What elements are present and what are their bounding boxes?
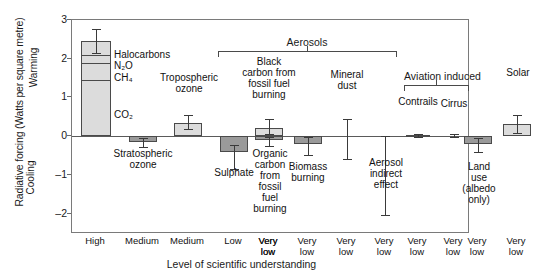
error-cap <box>230 145 239 146</box>
error-cap <box>304 155 313 156</box>
aviation-bracket-tick <box>468 85 469 91</box>
error-bar-mineral-dust <box>347 119 348 160</box>
label-n2o: N₂O <box>114 60 133 71</box>
y-axis-cooling-label: Cooling <box>25 143 36 213</box>
x-axis-title: Level of scientific understanding <box>0 258 483 270</box>
error-bar-organic-carbon-from-fossil-fuel-burning <box>269 137 270 146</box>
error-bar-sulphate <box>234 145 235 169</box>
error-cap <box>265 134 274 135</box>
aerosols-bracket-tick <box>396 51 397 57</box>
label-solar: Solar <box>500 67 535 78</box>
aviation-bracket-line <box>404 85 468 86</box>
aerosols-bracket-line <box>218 51 396 52</box>
label-mineral-dust: Mineral dust <box>320 69 374 91</box>
stack-divider-ch4 <box>82 63 110 64</box>
error-cap <box>343 119 352 120</box>
label-black-carbon: Black carbon from fossil fuel burning <box>222 56 316 100</box>
y-tick-neg1: –1 <box>37 168 67 180</box>
error-cap <box>474 152 483 153</box>
error-bar-tropospheric-ozone <box>188 115 189 129</box>
error-cap <box>265 119 274 120</box>
label-tropospheric-ozone: Tropospheric ozone <box>156 72 222 94</box>
error-cap <box>513 115 522 116</box>
label-biomass-burning: Biomass burning <box>280 161 336 183</box>
aerosols-bracket-tick <box>218 51 219 57</box>
label-co2: CO₂ <box>114 109 133 120</box>
error-bar-greenhouse-gases <box>96 29 97 53</box>
error-cap <box>304 137 313 138</box>
error-cap <box>450 134 459 135</box>
error-cap <box>513 133 522 134</box>
error-cap <box>450 137 459 138</box>
y-tick-3: 3 <box>37 13 67 25</box>
aviation-bracket-title: Aviation induced <box>404 70 468 82</box>
y-tick-neg2: –2 <box>37 207 67 219</box>
error-bar-stratospheric-ozone <box>143 138 144 147</box>
error-cap <box>92 53 101 54</box>
y-tick-2: 2 <box>37 52 67 64</box>
x-tick-2: Medium <box>161 236 213 247</box>
x-tick-12: Very low <box>490 236 535 257</box>
aerosols-bracket-title: Aerosols <box>218 36 396 48</box>
error-cap <box>474 138 483 139</box>
label-ch4: CH₄ <box>114 72 133 83</box>
label-cirrus: Cirrus <box>434 98 474 109</box>
x-tick-0: High <box>69 236 121 247</box>
error-bar-biomass-burning <box>308 137 309 156</box>
error-cap <box>414 137 423 138</box>
y-tick-0: 0 <box>37 129 67 141</box>
bar-greenhouse-gases-stacked <box>81 41 111 136</box>
y-tick-1: 1 <box>37 90 67 102</box>
error-bar-solar <box>517 115 518 133</box>
error-cap <box>381 215 390 216</box>
error-cap <box>414 134 423 135</box>
error-bar-land-use-albedo-only <box>478 138 479 152</box>
plot-area: HalocarbonsN₂OCH₄CO₂Tropospheric ozoneSt… <box>71 19 469 233</box>
label-stratospheric-ozone: Stratospheric ozone <box>96 148 190 170</box>
label-land-use: Land use (albedo only) <box>452 161 506 205</box>
label-halocarbons: Halocarbons <box>114 49 170 60</box>
error-cap <box>184 129 193 130</box>
error-cap <box>265 137 274 138</box>
error-cap <box>381 136 390 137</box>
stack-divider-n2o <box>82 55 110 56</box>
aviation-bracket-tick <box>404 85 405 91</box>
y-axis-title: Radiative forcing (Watts per square metr… <box>13 0 25 227</box>
error-cap <box>265 146 274 147</box>
error-cap <box>184 115 193 116</box>
stack-divider-co2 <box>82 80 110 81</box>
label-aerosol-indirect: Aerosol indirect effect <box>358 157 414 190</box>
error-cap <box>92 29 101 30</box>
error-cap <box>139 138 148 139</box>
error-bar-black-carbon-from-fossil-fuel-burning <box>269 119 270 134</box>
error-cap <box>343 159 352 160</box>
